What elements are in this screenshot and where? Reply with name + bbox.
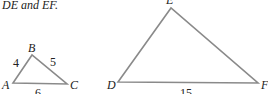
vertex-b-label: B [28,41,36,55]
vertex-f-label: F [260,78,268,92]
similar-triangles-diagram: DE and EF. A B C 4 5 6 D E F 15 [0,0,268,94]
vertex-a-label: A [1,78,10,92]
caption-text: DE and EF. [1,0,58,12]
vertex-d-label: D [106,78,116,92]
triangle-abc [13,55,67,84]
vertex-c-label: C [70,78,79,92]
side-bc-length: 5 [50,55,56,69]
vertex-e-label: E [165,0,174,7]
side-ac-length: 6 [35,86,41,94]
side-df-length: 15 [180,86,192,94]
side-ab-length: 4 [13,56,19,70]
triangle-def [118,8,258,83]
